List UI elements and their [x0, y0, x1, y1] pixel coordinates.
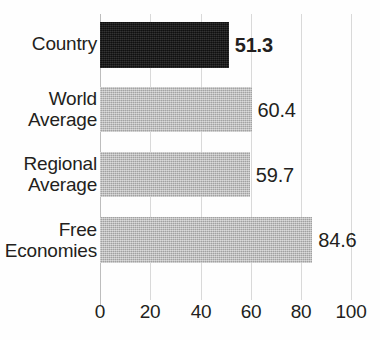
- x-tick-20: 20: [140, 300, 161, 324]
- x-tick-0: 0: [95, 300, 105, 324]
- bar-fill-regional-average: [100, 152, 250, 197]
- bar-row-regional-average: Regional Average 59.7: [0, 152, 380, 197]
- bar-free-economies[interactable]: [100, 217, 312, 263]
- value-label-country: 51.3: [235, 34, 273, 56]
- category-label-free-economies: Free Economies: [0, 219, 97, 261]
- category-label-country: Country: [32, 33, 97, 54]
- category-label-regional-average: Regional Average: [0, 153, 97, 195]
- x-axis: 0 20 40 60 80 100: [0, 300, 380, 334]
- bar-row-world-average: World Average 60.4: [0, 87, 380, 132]
- value-label-free-economies: 84.6: [318, 229, 356, 251]
- bar-row-country: Country 51.3: [0, 22, 380, 68]
- value-label-world-average: 60.4: [258, 99, 296, 121]
- bar-fill-free-economies: [100, 217, 312, 263]
- bar-country[interactable]: [100, 22, 229, 68]
- bar-chart: Country 51.3 World Average 60.4 Regional…: [0, 0, 380, 340]
- value-label-regional-average: 59.7: [256, 164, 294, 186]
- x-tick-40: 40: [191, 300, 212, 324]
- x-tick-80: 80: [291, 300, 312, 324]
- bar-row-free-economies: Free Economies 84.6: [0, 217, 380, 263]
- x-tick-100: 100: [335, 300, 366, 324]
- x-tick-60: 60: [241, 300, 262, 324]
- bar-fill-world-average: [100, 87, 252, 132]
- bar-world-average[interactable]: [100, 87, 252, 132]
- category-label-world-average: World Average: [0, 88, 97, 130]
- bar-fill-country: [100, 22, 229, 68]
- bar-regional-average[interactable]: [100, 152, 250, 197]
